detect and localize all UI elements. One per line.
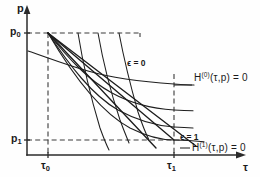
annotation-h-one: H(1)(τ,p) = 0 — [192, 143, 246, 153]
curve-epsilon-mid-b — [48, 33, 193, 128]
annotation-epsilon-one: ϵ = 1 — [180, 133, 198, 142]
curve-epsilon-1 — [48, 33, 204, 142]
x-tick-label-tau0: τ0 — [41, 160, 50, 171]
annotation-epsilon-zero: ϵ = 0 — [127, 59, 145, 68]
x-axis-title: τ — [243, 162, 248, 173]
y-tick-label-p0: p0 — [10, 26, 21, 37]
ray-2 — [48, 33, 174, 140]
ray-1 — [48, 33, 156, 148]
curve-epsilon-0 — [28, 51, 194, 85]
x-tick-label-tau1: τ1 — [167, 160, 176, 171]
p-axis-arrow-icon — [24, 5, 31, 14]
guide-lines — [27, 33, 190, 155]
figure-container: p0 p1 τ0 τ1 p τ ϵ = 0 ϵ = 1 H(0)(τ,p) = … — [0, 0, 260, 177]
annotation-h-zero: H(0)(τ,p) = 0 — [194, 73, 248, 83]
epsilon-curve-family — [28, 33, 204, 142]
y-tick-label-p1: p1 — [11, 133, 22, 144]
y-axis-title: p — [17, 3, 24, 14]
curve-epsilon-mid-a — [48, 33, 193, 111]
